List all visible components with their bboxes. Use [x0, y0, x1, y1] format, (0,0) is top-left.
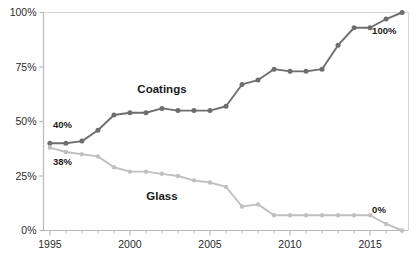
annotation-38pct: 38% [53, 156, 73, 167]
line-chart: 0%25%50%75%100%19952000200520102015 Coat… [0, 0, 418, 261]
data-point [111, 112, 116, 117]
data-point [400, 228, 404, 232]
y-tick-label: 50% [15, 115, 36, 127]
chart-container: 0%25%50%75%100%19952000200520102015 Coat… [0, 0, 418, 261]
data-point [95, 128, 100, 133]
data-point [48, 145, 52, 149]
data-point [320, 67, 325, 72]
data-point [320, 213, 324, 217]
data-point [224, 104, 229, 109]
data-point [288, 69, 293, 74]
data-point [288, 213, 292, 217]
x-tick-label: 2000 [118, 238, 142, 250]
data-point [79, 139, 84, 144]
annotation-100pct: 100% [372, 25, 397, 36]
y-tick-label: 25% [15, 170, 36, 182]
x-tick-label: 1995 [38, 238, 62, 250]
data-point [176, 174, 180, 178]
data-point [63, 141, 68, 146]
y-tick-label: 0% [21, 224, 36, 236]
data-point [336, 43, 341, 48]
plot-background [0, 0, 418, 261]
series-label-coatings: Coatings [137, 83, 186, 95]
data-point [128, 169, 132, 173]
data-point [272, 67, 277, 72]
data-point [240, 82, 245, 87]
data-point [47, 141, 52, 146]
y-tick-label: 100% [10, 6, 37, 18]
data-point [160, 172, 164, 176]
data-point [336, 213, 340, 217]
y-tick-label: 75% [15, 61, 36, 73]
data-point [256, 202, 260, 206]
x-tick-label: 2015 [358, 238, 382, 250]
data-point [192, 178, 196, 182]
data-point [352, 213, 356, 217]
data-point [207, 108, 212, 113]
data-point [96, 154, 100, 158]
data-point [304, 69, 309, 74]
data-point [400, 10, 405, 15]
data-point [224, 185, 228, 189]
series-label-glass: Glass [146, 190, 177, 202]
data-point [143, 110, 148, 115]
x-tick-label: 2005 [198, 238, 222, 250]
annotation-40pct: 40% [53, 119, 73, 130]
data-point [159, 106, 164, 111]
data-point [384, 222, 388, 226]
data-point [256, 78, 261, 83]
x-tick-label: 2010 [278, 238, 302, 250]
data-point [384, 17, 389, 22]
data-point [208, 180, 212, 184]
data-point [240, 204, 244, 208]
data-point [272, 213, 276, 217]
data-point [352, 25, 357, 30]
data-point [304, 213, 308, 217]
data-point [64, 150, 68, 154]
data-point [144, 169, 148, 173]
data-point [80, 152, 84, 156]
data-point [127, 110, 132, 115]
data-point [175, 108, 180, 113]
annotation-0pct: 0% [372, 204, 386, 215]
data-point [112, 165, 116, 169]
data-point [191, 108, 196, 113]
